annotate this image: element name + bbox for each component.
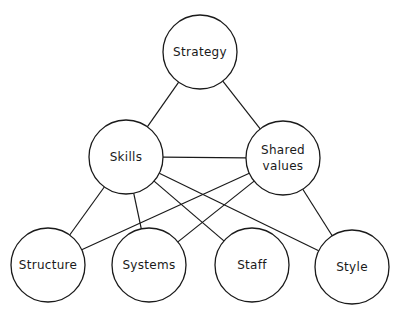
node-layer: StrategySkillsSharedvaluesStructureSyste… — [11, 15, 389, 304]
node-structure: Structure — [11, 228, 85, 302]
node-label: values — [263, 159, 304, 173]
node-skills: Skills — [89, 120, 163, 194]
node-shared-values: Sharedvalues — [246, 121, 320, 195]
node-label: Systems — [122, 258, 175, 272]
node-label: Style — [336, 260, 368, 274]
edge-skills-shared-values — [163, 157, 246, 158]
node-systems: Systems — [112, 228, 186, 302]
node-staff: Staff — [215, 228, 289, 302]
node-label: Structure — [19, 258, 78, 272]
node-label: Shared — [261, 143, 305, 157]
node-strategy: Strategy — [163, 15, 237, 89]
node-circle — [246, 121, 320, 195]
node-style: Style — [315, 230, 389, 304]
edge-skills-structure — [70, 187, 105, 235]
seven-s-diagram: StrategySkillsSharedvaluesStructureSyste… — [0, 0, 398, 320]
node-label: Strategy — [173, 45, 227, 59]
node-label: Skills — [110, 150, 143, 164]
edge-strategy-skills — [147, 82, 178, 127]
edge-strategy-shared-values — [223, 81, 260, 129]
node-label: Staff — [237, 258, 267, 272]
edge-shared-values-style — [303, 189, 332, 235]
